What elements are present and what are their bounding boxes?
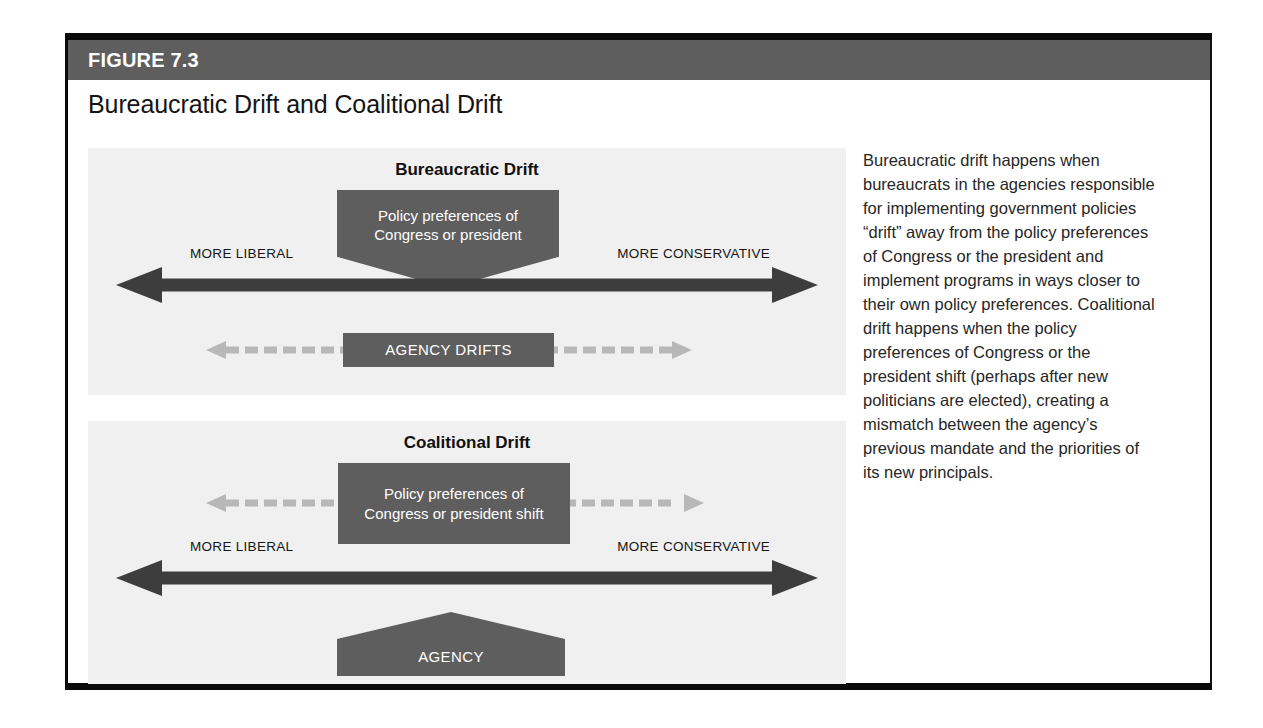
callout-policy-preferences-shift-line1: Policy preferences of [364, 484, 543, 503]
axis-label-more-liberal-coalitional: MORE LIBERAL [190, 539, 293, 554]
axis-label-more-conservative-bureaucratic: MORE CONSERVATIVE [617, 246, 770, 261]
drift-arrow-right-coalitional [566, 494, 704, 512]
callout-agency: AGENCY [337, 612, 565, 676]
figure-title: Bureaucratic Drift and Coalitional Drift [88, 90, 502, 119]
callout-agency-label: AGENCY [418, 647, 484, 666]
dashed-arrow-right-icon [566, 494, 704, 512]
spectrum-axis-bureaucratic: MORE LIBERAL MORE CONSERVATIVE [116, 266, 818, 304]
axis-label-more-conservative-coalitional: MORE CONSERVATIVE [617, 539, 770, 554]
dashed-arrow-left-icon [206, 341, 348, 359]
callout-agency-drifts-label: AGENCY DRIFTS [385, 340, 512, 359]
callout-agency-drifts: AGENCY DRIFTS [343, 333, 554, 367]
callout-policy-preferences-shift: Policy preferences of Congress or presid… [338, 463, 570, 544]
figure-container: FIGURE 7.3 Bureaucratic Drift and Coalit… [65, 33, 1212, 690]
drift-arrow-left-bureaucratic [206, 341, 348, 359]
callout-policy-preferences-line1: Policy preferences of [374, 206, 522, 225]
spectrum-axis-coalitional: MORE LIBERAL MORE CONSERVATIVE [116, 559, 818, 597]
dashed-arrow-right-icon [550, 341, 692, 359]
panel-title-bureaucratic: Bureaucratic Drift [88, 160, 846, 180]
callout-policy-preferences-shift-line2: Congress or president shift [364, 504, 543, 523]
dashed-arrow-left-icon [206, 494, 344, 512]
callout-policy-preferences-line2: Congress or president [374, 225, 522, 244]
double-headed-arrow-icon [116, 266, 818, 304]
drift-arrow-right-bureaucratic [550, 341, 692, 359]
figure-number-label: FIGURE 7.3 [88, 49, 199, 72]
double-headed-arrow-icon [116, 559, 818, 597]
figure-header-bar: FIGURE 7.3 [68, 40, 1210, 80]
panel-title-coalitional: Coalitional Drift [88, 433, 846, 453]
drift-arrow-left-coalitional [206, 494, 344, 512]
panel-bureaucratic-drift: Bureaucratic Drift Policy preferences of… [88, 148, 846, 395]
axis-label-more-liberal-bureaucratic: MORE LIBERAL [190, 246, 293, 261]
figure-caption: Bureaucratic drift happens when bureaucr… [863, 148, 1155, 484]
panel-coalitional-drift: Coalitional Drift [88, 421, 846, 684]
